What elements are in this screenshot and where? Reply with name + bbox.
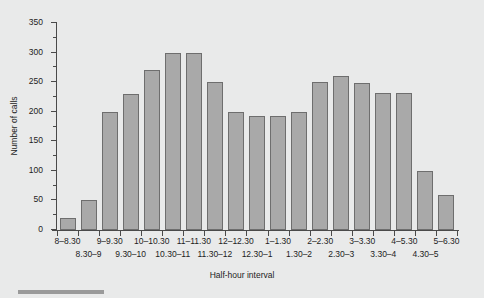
y-axis-tick-label: 150 (29, 136, 43, 145)
bar[interactable] (165, 53, 181, 230)
bar-slot (394, 23, 415, 230)
x-axis-tick-label: 2.30–3 (328, 250, 354, 259)
bar[interactable] (102, 112, 118, 230)
y-axis-tick-label: 100 (29, 166, 43, 175)
bar[interactable] (228, 112, 244, 230)
bar-slot (373, 23, 394, 230)
x-axis-tick-label: 12–12.30 (218, 237, 253, 246)
bar-slot (120, 23, 141, 230)
y-axis-tick-label: 50 (34, 195, 43, 204)
bar-slot (162, 23, 183, 230)
bar-slot (99, 23, 120, 230)
bar[interactable] (81, 200, 97, 230)
y-axis-tick-label: 250 (29, 77, 43, 86)
x-axis-tick-label: 1–1.30 (265, 237, 291, 246)
x-axis-title: Half-hour interval (0, 270, 484, 280)
bar-slot (415, 23, 436, 230)
chart-figure: Number of calls 050100150200250300350 8–… (0, 0, 484, 298)
bar-slot (78, 23, 99, 230)
bar[interactable] (249, 116, 265, 230)
bar[interactable] (291, 112, 307, 230)
plot-area (57, 23, 457, 230)
bar[interactable] (144, 70, 160, 230)
x-axis-tick-label: 12.30–1 (242, 250, 273, 259)
y-axis-tick-label: 350 (29, 18, 43, 27)
y-axis-tick-label: 0 (38, 225, 43, 234)
x-axis-tick-labels: 8–8.308.30–99–9.309.30–1010–10.3010.30–1… (57, 237, 457, 263)
y-axis-tick-label: 200 (29, 106, 43, 115)
bar-slot (352, 23, 373, 230)
x-axis-tick-label: 8.30–9 (76, 250, 102, 259)
bar[interactable] (312, 82, 328, 230)
bar-slot (331, 23, 352, 230)
x-axis-tick-label: 9–9.30 (97, 237, 123, 246)
y-axis-tick-labels: 050100150200250300350 (0, 22, 51, 231)
x-axis-tick-label: 3–3.30 (349, 237, 375, 246)
bar-slot (204, 23, 225, 230)
bar-slot (141, 23, 162, 230)
bar-slot (183, 23, 204, 230)
x-axis-tick-label: 9.30–10 (115, 250, 146, 259)
x-axis-tick-label: 3.30–4 (370, 250, 396, 259)
x-axis-tick-label: 4.30–5 (412, 250, 438, 259)
bar[interactable] (375, 93, 391, 230)
bar-slot (289, 23, 310, 230)
bar[interactable] (333, 76, 349, 230)
bar[interactable] (60, 218, 76, 230)
bar-slot (225, 23, 246, 230)
bottom-rule (18, 290, 104, 294)
y-axis-tick-label: 300 (29, 47, 43, 56)
bar-slot (246, 23, 267, 230)
bar[interactable] (207, 82, 223, 230)
x-axis-tick-label: 10.30–11 (155, 250, 190, 259)
x-axis-tick-label: 8–8.30 (55, 237, 81, 246)
bar[interactable] (270, 116, 286, 230)
bar[interactable] (417, 171, 433, 230)
x-axis-tick-label: 2–2.30 (307, 237, 333, 246)
x-axis-tick-label: 4–5.30 (391, 237, 417, 246)
x-axis-tick-label: 5–6.30 (433, 237, 459, 246)
bar-slot (57, 23, 78, 230)
x-axis-tick-label: 11–11.30 (177, 237, 211, 246)
bar-slot (267, 23, 288, 230)
bar[interactable] (123, 94, 139, 230)
x-axis-tick-label: 11.30–12 (197, 250, 232, 259)
bar[interactable] (396, 93, 412, 230)
x-axis-tick-label: 1.30–2 (286, 250, 312, 259)
x-axis-tick-label: 10–10.30 (134, 237, 169, 246)
bar[interactable] (438, 195, 454, 230)
bar[interactable] (186, 53, 202, 230)
bar-slot (310, 23, 331, 230)
bar[interactable] (354, 83, 370, 230)
bar-slot (436, 23, 457, 230)
bar-series (57, 23, 457, 230)
